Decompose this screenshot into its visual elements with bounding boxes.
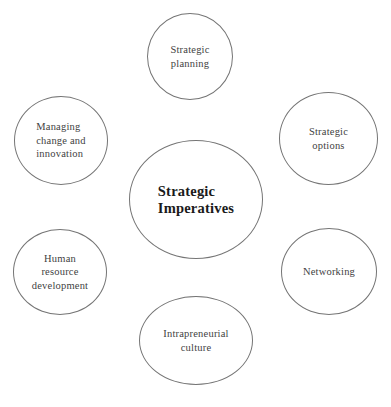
- node-strategic-imperatives-label: Strategic Imperatives: [158, 183, 234, 217]
- node-strategic-imperatives-center: Strategic Imperatives: [129, 140, 263, 259]
- node-networking-label: Networking: [303, 265, 355, 279]
- node-strategic-planning-label: Strategic planning: [170, 43, 209, 70]
- node-strategic-options-label: Strategic options: [309, 125, 348, 152]
- node-strategic-options: Strategic options: [279, 92, 378, 185]
- strategic-imperatives-diagram: Strategic planning Strategic options Man…: [0, 0, 391, 407]
- node-intrapreneurial-culture-label: Intrapreneurial culture: [163, 327, 228, 354]
- node-human-resource-development: Human resource development: [13, 229, 107, 315]
- node-human-resource-development-label: Human resource development: [32, 252, 88, 293]
- node-intrapreneurial-culture: Intrapreneurial culture: [139, 296, 253, 385]
- node-strategic-planning: Strategic planning: [147, 13, 233, 100]
- node-managing-change-and-innovation-label: Managing change and innovation: [36, 120, 86, 161]
- node-networking: Networking: [281, 228, 377, 315]
- node-managing-change-and-innovation: Managing change and innovation: [14, 96, 108, 185]
